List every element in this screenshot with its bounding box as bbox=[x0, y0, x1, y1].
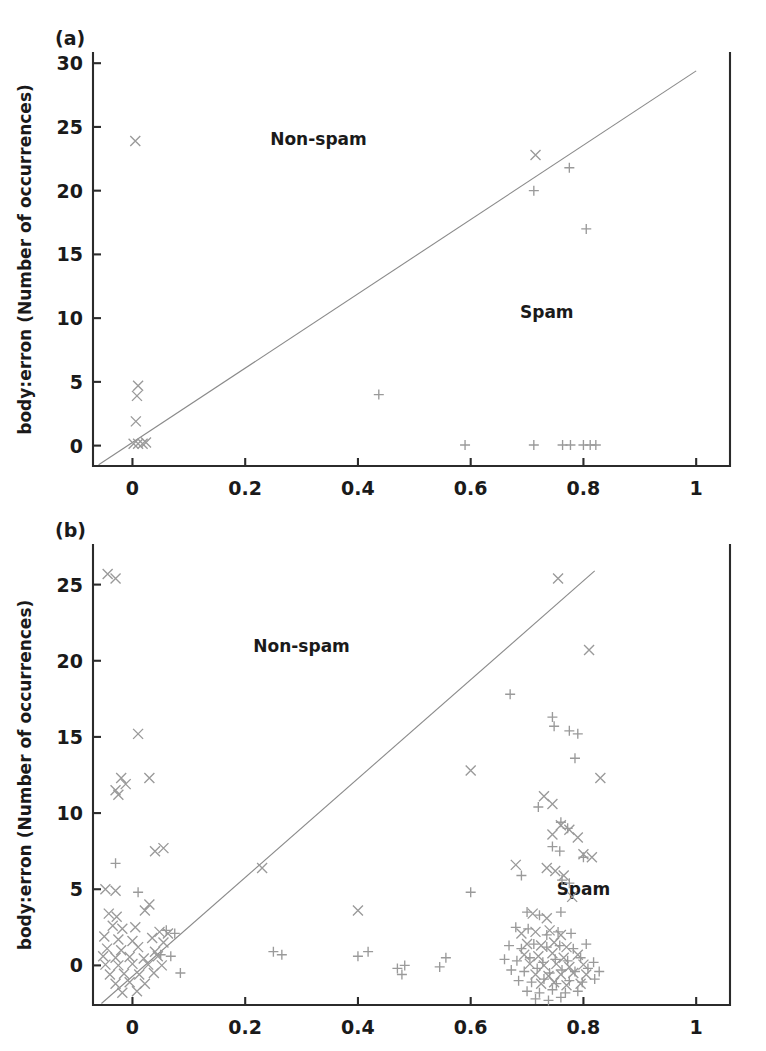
data-point-cross bbox=[353, 906, 363, 916]
data-point-cross bbox=[149, 968, 159, 978]
data-point-plus bbox=[500, 954, 510, 964]
data-point-cross bbox=[113, 790, 123, 800]
data-point-cross bbox=[133, 381, 143, 391]
data-point-cross bbox=[130, 922, 140, 932]
panel-a: (a)05101520253000.20.40.60.81body:erron … bbox=[15, 27, 730, 499]
panel-a-ytick-label: 5 bbox=[70, 371, 83, 393]
data-point-plus bbox=[505, 689, 515, 699]
data-point-plus bbox=[529, 186, 539, 196]
data-point-plus bbox=[111, 858, 121, 868]
data-point-cross bbox=[119, 969, 129, 979]
data-point-cross bbox=[111, 953, 121, 963]
data-point-cross bbox=[138, 439, 148, 449]
panel-b-ytick-label: 5 bbox=[70, 878, 83, 900]
panel-b-y-axis-title: body:erron (Number of occurrences) bbox=[15, 600, 35, 951]
data-point-plus bbox=[594, 966, 604, 976]
data-point-cross bbox=[547, 799, 557, 809]
data-point-plus bbox=[512, 956, 522, 966]
panel-b-xtick-label: 1 bbox=[690, 1016, 703, 1038]
data-point-cross bbox=[595, 773, 605, 783]
panel-b-xtick-label: 0 bbox=[126, 1016, 139, 1038]
data-point-cross bbox=[153, 951, 163, 961]
data-point-plus bbox=[547, 842, 557, 852]
panel-a-y-axis-title: body:erron (Number of occurrences) bbox=[15, 84, 35, 435]
panel-b-series-spam bbox=[111, 689, 605, 1005]
data-point-plus bbox=[460, 440, 470, 450]
data-point-cross bbox=[573, 832, 583, 842]
scatter-figure: (a)05101520253000.20.40.60.81body:erron … bbox=[0, 0, 766, 1051]
data-point-cross bbox=[139, 954, 149, 964]
data-point-cross bbox=[99, 931, 109, 941]
data-point-cross bbox=[531, 150, 541, 160]
data-point-cross bbox=[542, 863, 552, 873]
data-point-cross bbox=[511, 860, 521, 870]
data-point-plus bbox=[133, 887, 143, 897]
panel-b-ytick-label: 20 bbox=[57, 650, 83, 672]
panel-b-xtick-label: 0.4 bbox=[341, 1016, 375, 1038]
data-point-plus bbox=[522, 986, 532, 996]
data-point-plus bbox=[533, 802, 543, 812]
data-point-cross bbox=[528, 909, 538, 919]
data-point-plus bbox=[527, 977, 537, 987]
data-point-plus bbox=[397, 970, 407, 980]
data-point-cross bbox=[562, 942, 572, 952]
panel-b-ytick-label: 0 bbox=[70, 954, 83, 976]
data-point-plus bbox=[543, 995, 553, 1005]
data-point-cross bbox=[105, 970, 115, 980]
data-point-cross bbox=[584, 645, 594, 655]
panel-a-ytick-label: 0 bbox=[70, 435, 83, 457]
panel-b-letter: (b) bbox=[55, 519, 86, 541]
data-point-cross bbox=[133, 729, 143, 739]
data-point-cross bbox=[553, 574, 563, 584]
data-point-plus bbox=[156, 950, 166, 960]
data-point-plus bbox=[374, 390, 384, 400]
panel-b-ytick-label: 15 bbox=[57, 726, 83, 748]
panel-a-letter: (a) bbox=[55, 27, 85, 49]
data-point-cross bbox=[143, 960, 153, 970]
panel-a-separating-line bbox=[99, 71, 697, 465]
data-point-cross bbox=[108, 921, 118, 931]
panel-a-axis-frame bbox=[93, 53, 730, 466]
panel-b-ytick-label: 10 bbox=[57, 802, 83, 824]
panel-a-xtick-label: 0.2 bbox=[228, 477, 262, 499]
data-point-plus bbox=[578, 852, 588, 862]
data-point-plus bbox=[466, 887, 476, 897]
data-point-plus bbox=[556, 992, 566, 1002]
data-point-cross bbox=[144, 773, 154, 783]
data-point-cross bbox=[536, 941, 546, 951]
data-point-plus bbox=[555, 846, 565, 856]
data-point-cross bbox=[112, 912, 122, 922]
data-point-cross bbox=[140, 906, 150, 916]
panel-b-axis-frame bbox=[93, 545, 730, 1005]
data-point-plus bbox=[570, 753, 580, 763]
panel-b-xtick-label: 0.2 bbox=[228, 1016, 262, 1038]
data-point-plus bbox=[529, 440, 539, 450]
panel-a-ytick-label: 15 bbox=[57, 243, 83, 265]
data-point-plus bbox=[564, 163, 574, 173]
data-point-plus bbox=[166, 951, 176, 961]
panel-b-region-label: Non-spam bbox=[253, 636, 350, 656]
data-point-cross bbox=[466, 765, 476, 775]
data-point-cross bbox=[141, 437, 151, 447]
data-point-cross bbox=[133, 942, 143, 952]
data-point-cross bbox=[150, 846, 160, 856]
data-point-plus bbox=[441, 953, 451, 963]
data-point-plus bbox=[353, 951, 363, 961]
panel-a-ytick-label: 30 bbox=[57, 52, 83, 74]
data-point-cross bbox=[547, 829, 557, 839]
data-point-plus bbox=[545, 968, 555, 978]
panel-b-xtick-label: 0.6 bbox=[454, 1016, 488, 1038]
data-point-plus bbox=[516, 944, 526, 954]
data-point-cross bbox=[100, 884, 110, 894]
panel-a-xtick-label: 0.6 bbox=[454, 477, 488, 499]
data-point-plus bbox=[538, 957, 548, 967]
data-point-plus bbox=[435, 962, 445, 972]
data-point-plus bbox=[568, 944, 578, 954]
panel-a-xtick-label: 0.8 bbox=[567, 477, 601, 499]
data-point-cross bbox=[516, 928, 526, 938]
data-point-cross bbox=[158, 938, 168, 948]
panel-a-ytick-label: 25 bbox=[57, 116, 83, 138]
data-point-plus bbox=[363, 947, 373, 957]
data-point-cross bbox=[116, 773, 126, 783]
data-point-plus bbox=[565, 440, 575, 450]
